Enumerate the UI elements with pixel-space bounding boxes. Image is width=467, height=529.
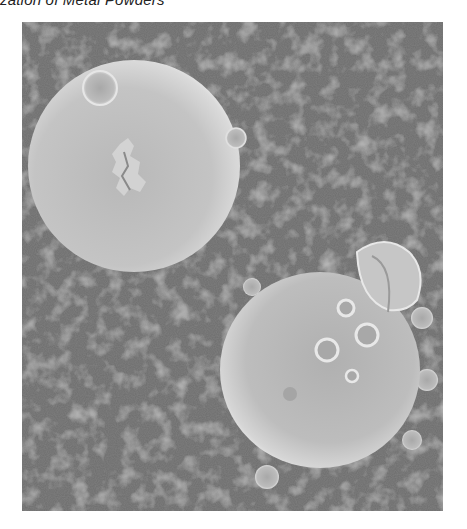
sem-micrograph: [22, 22, 443, 511]
micrograph-graphic: [22, 22, 443, 511]
figure-caption: zation of Metal Powders: [0, 0, 165, 8]
